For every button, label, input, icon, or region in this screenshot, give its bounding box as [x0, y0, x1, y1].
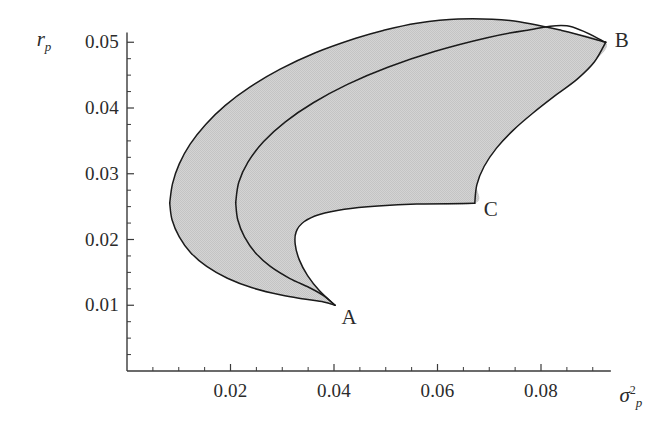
y-tick-label: 0.05 [85, 31, 119, 53]
x-axis-title: σ2p [619, 383, 642, 411]
plot-canvas [0, 0, 662, 434]
x-tick-label: 0.08 [524, 380, 558, 402]
chart-figure: 0.01 0.02 0.03 0.04 0.05 0.02 0.04 0.06 … [0, 0, 662, 434]
x-tick-label: 0.02 [213, 380, 247, 402]
x-tick-label: 0.04 [317, 380, 351, 402]
x-axis-subscript: p [636, 395, 643, 410]
y-axis-symbol: r [37, 27, 45, 51]
annotation-label-b: B [615, 28, 629, 53]
y-axis-subscript: p [45, 39, 52, 54]
x-axis-symbol: σ [619, 383, 629, 407]
y-tick-label: 0.02 [85, 229, 119, 251]
x-tick-label: 0.06 [420, 380, 454, 402]
y-axis-title: rp [37, 27, 52, 55]
y-tick-label: 0.03 [85, 163, 119, 185]
shaded-feasible-region [170, 19, 607, 306]
frontier-curve [295, 203, 475, 305]
shaded-region-path [170, 19, 607, 306]
y-tick-label: 0.01 [85, 294, 119, 316]
y-tick-label: 0.04 [85, 97, 119, 119]
annotation-label-c: C [484, 197, 498, 222]
annotation-label-a: A [341, 305, 356, 330]
